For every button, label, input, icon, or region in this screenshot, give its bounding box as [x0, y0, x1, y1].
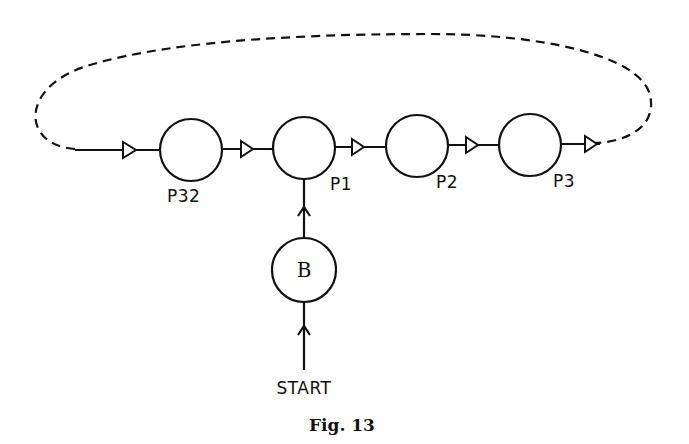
node-label: P32 — [167, 186, 200, 206]
node-p1: P1 — [273, 117, 352, 194]
start-label: START — [277, 378, 332, 398]
arrow-icon — [466, 137, 478, 153]
node-b: B — [272, 238, 336, 302]
node-label: P1 — [330, 174, 352, 194]
figure-caption: Fig. 13 — [309, 415, 375, 435]
diagram-canvas: P32 P1 P2 P3 B START Fig. 13 — [0, 0, 689, 444]
arrow-icon — [585, 136, 597, 152]
arrow-icon — [241, 141, 253, 157]
node-label: P3 — [553, 171, 575, 191]
node-label: P2 — [436, 172, 458, 192]
node-p3: P3 — [499, 114, 575, 191]
node-label: B — [297, 258, 312, 282]
node-p32: P32 — [160, 119, 222, 206]
arrow-icon — [352, 139, 364, 155]
arrow-icon — [123, 142, 136, 158]
node-p2: P2 — [386, 115, 458, 192]
